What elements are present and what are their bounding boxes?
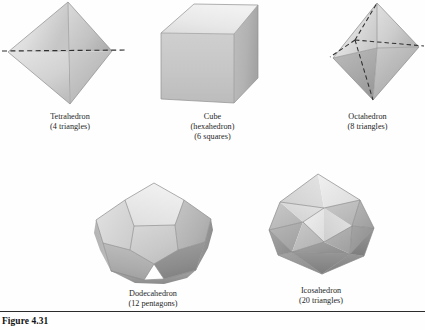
solid-name: Icosahedron <box>256 286 386 296</box>
solid-detail: (6 squares) <box>150 132 275 142</box>
solid-name: Dodecahedron <box>88 289 218 299</box>
caption-dodecahedron: Dodecahedron (12 pentagons) <box>88 289 218 309</box>
solid-cube: Cube (hexahedron) (6 squares) <box>150 0 275 155</box>
solid-tetrahedron: Tetrahedron (4 triangles) <box>0 0 140 140</box>
figure-divider-rule <box>0 311 425 312</box>
figure-page: Tetrahedron (4 triangles) <box>0 0 425 330</box>
solid-name: Tetrahedron <box>0 112 140 122</box>
solid-detail: (12 pentagons) <box>88 299 218 309</box>
solid-name: Cube <box>150 112 275 122</box>
solid-octahedron: Octahedron (8 triangles) <box>310 0 425 140</box>
solid-detail: (20 triangles) <box>256 296 386 306</box>
icosahedron-icon <box>256 170 386 282</box>
figure-number-label: Figure 4.31 <box>2 316 48 326</box>
solid-dodecahedron: Dodecahedron (12 pentagons) <box>88 178 218 328</box>
solid-detail: (4 triangles) <box>0 122 140 132</box>
solid-icosahedron: Icosahedron (20 triangles) <box>256 170 386 328</box>
caption-cube: Cube (hexahedron) (6 squares) <box>150 112 275 143</box>
caption-octahedron: Octahedron (8 triangles) <box>310 112 425 132</box>
solid-detail: (8 triangles) <box>310 122 425 132</box>
dodecahedron-icon <box>88 178 218 286</box>
cube-icon <box>150 0 275 110</box>
solid-alt-name: (hexahedron) <box>150 122 275 132</box>
caption-icosahedron: Icosahedron (20 triangles) <box>256 286 386 306</box>
solid-name: Octahedron <box>310 112 425 122</box>
octahedron-icon <box>310 0 425 108</box>
caption-tetrahedron: Tetrahedron (4 triangles) <box>0 112 140 132</box>
tetrahedron-icon <box>0 0 140 110</box>
